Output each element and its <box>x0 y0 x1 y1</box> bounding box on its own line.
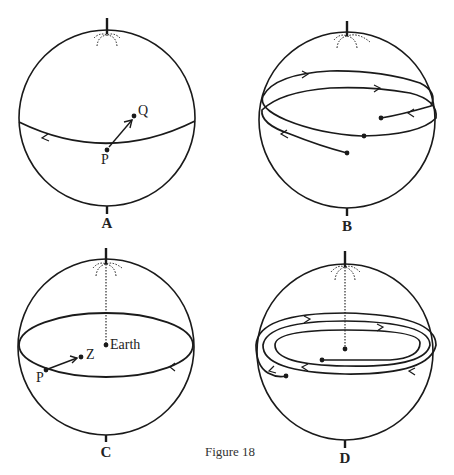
star-point <box>284 374 289 379</box>
pole-star-trails-icon <box>334 35 370 48</box>
panel-b <box>259 21 436 216</box>
arrow-icon <box>377 324 383 331</box>
panel-label-b: B <box>342 218 352 235</box>
star-point <box>379 116 384 121</box>
label-point-p: P <box>36 370 44 386</box>
label-point-z: Z <box>86 347 95 363</box>
label-point-q: Q <box>138 103 148 119</box>
point-q <box>132 114 137 119</box>
star-point <box>345 151 350 156</box>
star-point <box>320 358 325 363</box>
motion-arrow <box>48 358 77 369</box>
arrow-icon <box>269 366 276 373</box>
pole-star-trails-icon <box>94 34 120 46</box>
figure-18-diagram <box>0 0 454 475</box>
panel-a <box>19 18 195 214</box>
pole-projection-point <box>343 347 348 352</box>
equator-arrow-icon <box>170 363 175 371</box>
panel-label-a: A <box>102 215 113 232</box>
panel-d <box>256 251 436 448</box>
label-point-p: P <box>101 152 109 168</box>
star-point <box>362 134 367 139</box>
point-z <box>79 355 84 360</box>
equator-arrow-icon <box>42 134 49 141</box>
panel-label-d: D <box>340 450 351 467</box>
celestial-sphere <box>19 30 195 206</box>
point-p <box>44 368 49 373</box>
arrow-icon <box>409 368 415 375</box>
arrow-icon <box>408 109 414 117</box>
earth-point <box>104 343 109 348</box>
pole-star-trails-icon <box>93 263 122 276</box>
panel-label-c: C <box>101 444 112 461</box>
figure-caption: Figure 18 <box>205 444 255 460</box>
label-earth: Earth <box>110 337 140 353</box>
spiral-star-path <box>256 313 436 377</box>
panel-c <box>18 248 194 442</box>
celestial-sphere <box>257 264 433 440</box>
